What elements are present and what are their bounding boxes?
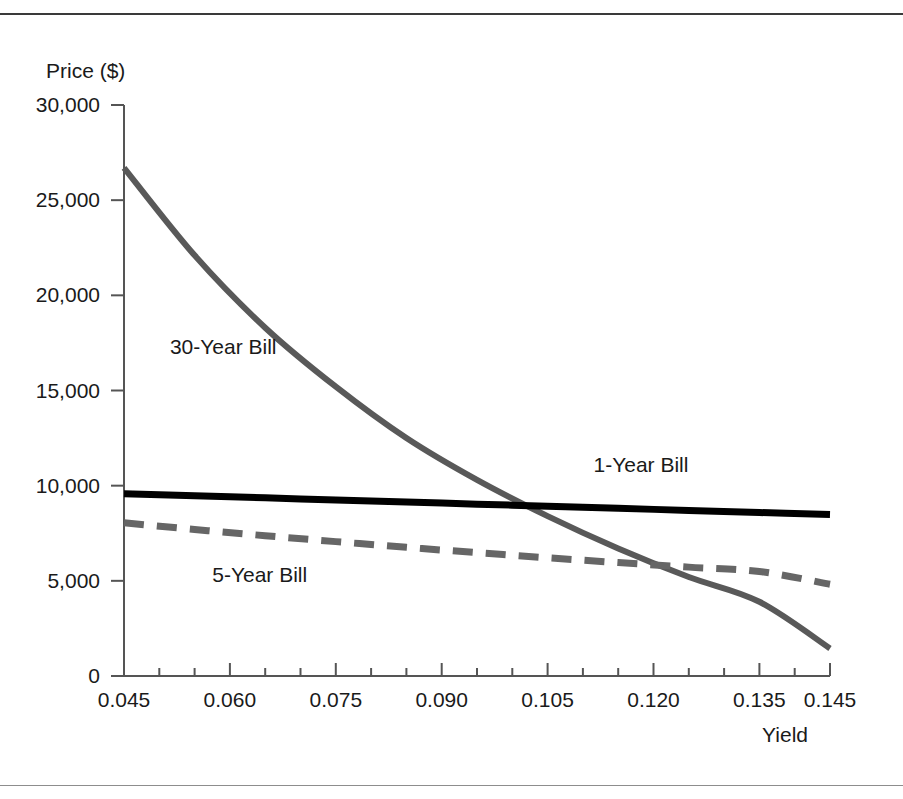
x-axis-tick-label: 0.060 — [204, 688, 257, 711]
series-label-5-year-bill: 5-Year Bill — [212, 563, 307, 586]
price-yield-chart: 05,00010,00015,00020,00025,00030,000 0.0… — [0, 0, 903, 799]
x-axis-tick-labels: 0.0450.0600.0750.0900.1050.1200.1350.145 — [98, 688, 857, 711]
x-axis-tick-label: 0.145 — [804, 688, 857, 711]
x-axis-tick-label: 0.105 — [521, 688, 574, 711]
y-axis-tick-labels: 05,00010,00015,00020,00025,00030,000 — [36, 93, 100, 687]
figure-container: 05,00010,00015,00020,00025,00030,000 0.0… — [0, 0, 903, 799]
x-axis-tick-label: 0.135 — [733, 688, 786, 711]
x-axis-tick-label: 0.075 — [310, 688, 363, 711]
x-axis-tick-label: 0.120 — [627, 688, 680, 711]
y-axis-tick-label: 15,000 — [36, 379, 100, 402]
x-axis-tick-label: 0.045 — [98, 688, 151, 711]
y-axis-tick-label: 5,000 — [47, 569, 100, 592]
y-axis-tick-label: 20,000 — [36, 283, 100, 306]
y-axis-tick-label: 10,000 — [36, 474, 100, 497]
x-axis-title: Yield — [762, 723, 808, 746]
y-axis-tick-label: 0 — [88, 664, 100, 687]
y-axis-title: Price ($) — [46, 59, 125, 82]
series-line-1-year-bill — [124, 494, 830, 515]
x-axis-minor-ticks — [159, 668, 794, 676]
x-axis-tick-label: 0.090 — [415, 688, 468, 711]
y-axis-tick-label: 25,000 — [36, 188, 100, 211]
y-axis-ticks — [111, 105, 124, 676]
series-label-1-year-bill: 1-Year Bill — [593, 453, 688, 476]
series-label-30-year-bill: 30-Year Bill — [170, 335, 277, 358]
y-axis-tick-label: 30,000 — [36, 93, 100, 116]
